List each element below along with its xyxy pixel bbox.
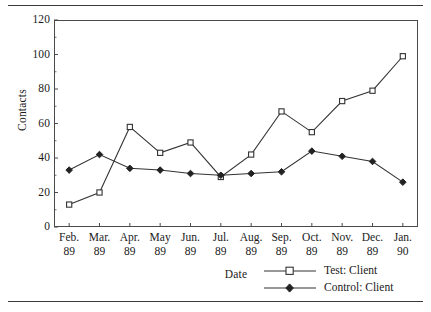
- legend-item-test-client: Test: Client: [262, 262, 430, 279]
- legend-label-test-client: Test: Client: [318, 264, 377, 277]
- legend-item-control-client: Control: Client: [262, 279, 430, 296]
- y-axis-ticks: [54, 20, 58, 227]
- series-test-client: [67, 54, 406, 208]
- chart-legend: Test: Client Control: Client: [262, 262, 430, 296]
- legend-label-control-client: Control: Client: [318, 281, 393, 294]
- legend-marker-filled-diamond: [262, 281, 318, 295]
- x-axis-ticks: [69, 223, 403, 227]
- legend-marker-open-square: [262, 264, 318, 278]
- series-control-client: [66, 148, 406, 186]
- chart-page: 120 100 80 60 40 20 0 Contacts Feb.89Mar…: [0, 0, 431, 312]
